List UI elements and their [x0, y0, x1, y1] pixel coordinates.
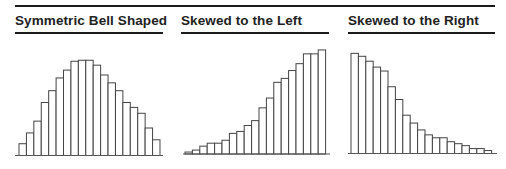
histogram-bar	[153, 140, 160, 156]
histogram-bar	[366, 61, 373, 153]
histogram-bar	[222, 140, 229, 154]
histogram-bar	[71, 61, 78, 155]
histogram-bar	[477, 149, 484, 154]
histogram-bar	[395, 100, 402, 154]
histogram-bar	[281, 78, 288, 154]
histogram-bar	[207, 143, 214, 154]
histogram-bar	[358, 56, 365, 153]
panel-skewed-left: Skewed to the Left	[181, 0, 331, 169]
histogram-bar	[388, 87, 395, 154]
histogram-bar	[403, 115, 410, 153]
histogram-bar	[410, 123, 417, 153]
histogram-bar	[252, 121, 259, 154]
histogram-bar	[296, 64, 303, 154]
histogram-bar	[215, 143, 222, 154]
histogram-symmetric	[15, 0, 165, 169]
histogram-bar	[381, 71, 388, 153]
histogram-bar	[259, 108, 266, 154]
histogram-bar	[303, 54, 310, 154]
histogram-bar	[311, 54, 318, 154]
histogram-bar	[455, 144, 462, 154]
histogram-bar	[19, 144, 26, 156]
histogram-bar	[462, 146, 469, 154]
histogram-bar	[266, 98, 273, 154]
histogram-bar	[86, 60, 93, 155]
histogram-bar	[318, 50, 325, 154]
histogram-bar	[200, 146, 207, 154]
panel-symmetric: Symmetric Bell Shaped	[15, 0, 165, 169]
histogram-bar	[115, 91, 122, 156]
histogram-bar	[418, 130, 425, 154]
histogram-bar	[56, 78, 63, 156]
histogram-bar	[274, 82, 281, 154]
histogram-bar	[469, 149, 476, 154]
histogram-skewed-right	[348, 0, 498, 169]
histogram-bar	[440, 138, 447, 154]
histogram-bar	[34, 121, 41, 155]
histogram-bar	[229, 133, 236, 154]
histogram-bar	[101, 75, 108, 156]
histogram-bar	[64, 70, 71, 155]
histogram-bar	[26, 133, 33, 156]
histogram-bar	[432, 138, 439, 154]
histogram-bar	[351, 53, 358, 153]
histogram-bar	[145, 128, 152, 155]
histogram-bar	[41, 102, 48, 155]
histogram-bar	[108, 83, 115, 156]
histogram-bar	[244, 126, 251, 154]
histogram-bar	[237, 131, 244, 154]
histogram-bar	[123, 102, 130, 155]
histogram-bar	[289, 71, 296, 154]
histogram-bar	[373, 67, 380, 153]
histogram-bar	[138, 113, 145, 155]
histogram-bar	[425, 135, 432, 154]
histogram-bar	[49, 91, 56, 156]
histogram-bar	[78, 60, 85, 155]
histogram-bar	[447, 142, 454, 154]
histogram-skewed-left	[181, 0, 331, 169]
histogram-bar	[93, 65, 100, 155]
histogram-bar	[130, 107, 137, 155]
panel-skewed-right: Skewed to the Right	[348, 0, 498, 169]
